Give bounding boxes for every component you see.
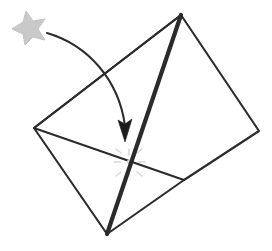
target-spark-ray-se xyxy=(137,172,142,176)
curved-arrow-shaft xyxy=(47,33,125,126)
fold-line-left-to-bottom-right xyxy=(34,128,184,180)
fold-line-top-to-left xyxy=(34,15,181,128)
target-spark-ray-ne xyxy=(137,149,142,153)
origami-fold-diagram xyxy=(0,0,272,251)
fold-line-main-crease xyxy=(107,15,181,234)
star-icon xyxy=(12,11,45,45)
diagram-canvas xyxy=(0,0,272,251)
target-spark-ray-sw xyxy=(116,172,121,176)
target-spark-ray-nw xyxy=(116,149,121,153)
sheet-outline xyxy=(34,15,259,234)
